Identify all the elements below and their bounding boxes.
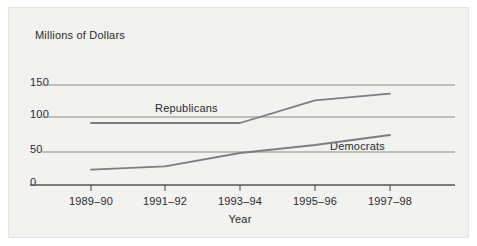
chart-figure: Millions of Dollars 150 100 50 0 1989–90… — [0, 0, 477, 246]
plot-area — [0, 0, 477, 246]
gridlines — [42, 85, 455, 152]
x-axis-ticks — [91, 185, 390, 191]
series-line-republicans — [91, 94, 390, 123]
